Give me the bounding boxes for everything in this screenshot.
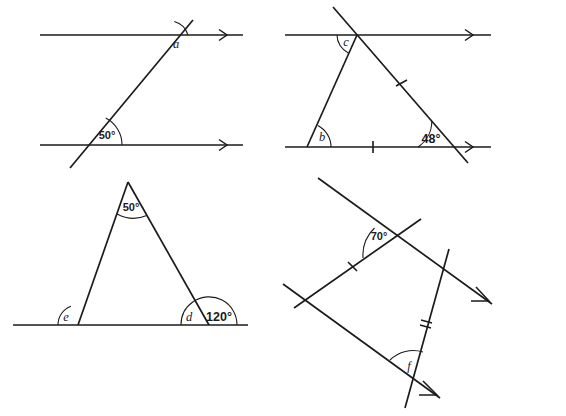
angle-50-label: 50° bbox=[99, 129, 116, 141]
figure-triangle-between-parallels: c b 48° bbox=[283, 0, 566, 180]
triangle-right-side bbox=[128, 182, 209, 325]
upper-parallel-line bbox=[318, 178, 492, 304]
left-transversal-line bbox=[294, 219, 421, 308]
transversal-line bbox=[333, 7, 468, 163]
angle-apex-50-label: 50° bbox=[123, 201, 140, 213]
figure-parallelogram-transversals: 70° f bbox=[283, 175, 566, 416]
upper-parallel-arrowhead bbox=[471, 287, 489, 301]
angle-c-label: c bbox=[343, 35, 349, 49]
figure-triangle-on-baseline: 50° e d 120° bbox=[0, 170, 283, 416]
angle-b-label: b bbox=[319, 130, 325, 144]
double-tick-mark-1 bbox=[421, 320, 432, 323]
angle-70-label: 70° bbox=[371, 230, 388, 242]
angle-48-label: 48° bbox=[422, 132, 441, 146]
angle-e-label: e bbox=[63, 310, 69, 324]
figure-parallel-lines-transversal: a 50° bbox=[0, 0, 283, 180]
angle-apex-arc bbox=[117, 214, 147, 218]
triangle-left-side bbox=[78, 182, 128, 325]
worksheet-canvas: a 50° c b 48° bbox=[0, 0, 566, 416]
angle-a-label: a bbox=[173, 37, 179, 51]
lower-parallel-line bbox=[283, 284, 440, 398]
angle-d-label: d bbox=[186, 310, 193, 324]
double-tick-mark-2 bbox=[420, 325, 431, 328]
triangle-left-side bbox=[307, 35, 357, 147]
lower-parallel-arrowhead bbox=[419, 381, 437, 395]
angle-f-label: f bbox=[407, 359, 412, 373]
angle-120-label: 120° bbox=[206, 310, 232, 324]
